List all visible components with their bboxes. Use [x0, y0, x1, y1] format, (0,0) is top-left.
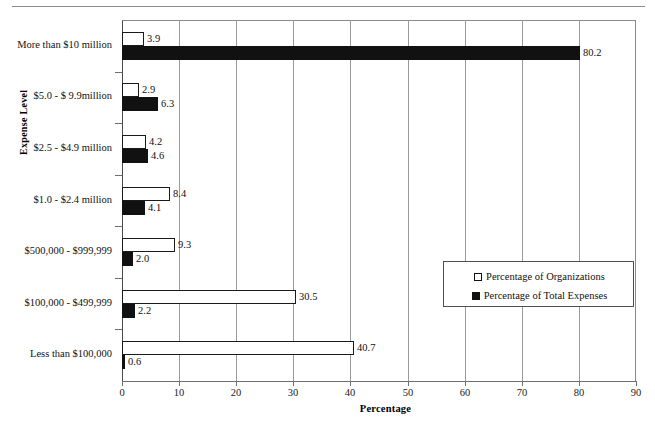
bar-organizations-6: [122, 341, 354, 355]
bar-organizations-3: [122, 187, 170, 201]
bar-organizations-0-value-label: 3.9: [147, 34, 160, 45]
y-tick-5: [115, 278, 122, 279]
bar-total-expenses-5-value-label: 2.2: [138, 306, 151, 317]
category-label-text: More than $10 million: [17, 39, 112, 50]
bar-total-expenses-2-value-label: 4.6: [151, 151, 164, 162]
gridline-80: [579, 20, 580, 381]
category-label-text: $1.0 - $2.4 million: [34, 194, 112, 205]
legend-label-total-expenses: Percentage of Total Expenses: [484, 290, 608, 301]
x-tick-20: [236, 381, 237, 386]
y-tick-6: [115, 329, 122, 330]
x-axis-title: Percentage: [0, 403, 655, 414]
gridline-20: [236, 20, 237, 381]
bar-organizations-5: [122, 290, 296, 304]
x-tick-label-90: 90: [616, 387, 655, 398]
x-tick-label-20: 20: [216, 387, 256, 398]
x-tick-label-40: 40: [330, 387, 370, 398]
bar-total-expenses-2: [122, 149, 148, 163]
gridline-10: [179, 20, 180, 381]
x-tick-70: [522, 381, 523, 386]
category-label-text: $2.5 - $4.9 million: [34, 142, 112, 153]
bar-total-expenses-5: [122, 304, 135, 318]
x-tick-0: [122, 381, 123, 386]
bar-organizations-3-value-label: 8.4: [173, 189, 186, 200]
chart-legend: Percentage of Organizations Percentage o…: [443, 261, 634, 307]
x-tick-label-0: 0: [102, 387, 142, 398]
gridline-50: [408, 20, 409, 381]
gridline-60: [465, 20, 466, 381]
x-tick-60: [465, 381, 466, 386]
x-tick-label-70: 70: [502, 387, 542, 398]
header-divider: [12, 6, 645, 7]
y-tick-3: [115, 175, 122, 176]
bar-organizations-2-value-label: 4.2: [149, 137, 162, 148]
y-tick-4: [115, 226, 122, 227]
legend-label-organizations: Percentage of Organizations: [486, 271, 605, 282]
x-tick-label-80: 80: [559, 387, 599, 398]
bar-chart: 0102030405060708090 More than $10 millio…: [0, 0, 655, 429]
bar-total-expenses-0: [122, 46, 580, 60]
x-tick-40: [350, 381, 351, 386]
category-label-text: $100,000 - $499,999: [25, 297, 113, 308]
bar-total-expenses-4: [122, 252, 133, 266]
x-axis-title-text: Percentage: [360, 403, 411, 414]
x-tick-10: [179, 381, 180, 386]
x-axis-line: [122, 381, 636, 382]
category-label-text: Less than $100,000: [30, 348, 112, 359]
gridline-70: [522, 20, 523, 381]
bar-organizations-1-value-label: 2.9: [142, 85, 155, 96]
gridline-30: [293, 20, 294, 381]
bar-total-expenses-6: [122, 355, 125, 369]
bar-total-expenses-1-value-label: 6.3: [161, 99, 174, 110]
bar-total-expenses-3: [122, 201, 145, 215]
plot-area: [122, 20, 636, 381]
bar-total-expenses-1: [122, 97, 158, 111]
x-tick-label-60: 60: [445, 387, 485, 398]
bar-total-expenses-3-value-label: 4.1: [148, 203, 161, 214]
x-tick-80: [579, 381, 580, 386]
bar-organizations-6-value-label: 40.7: [357, 343, 375, 354]
y-tick-2: [115, 123, 122, 124]
legend-swatch-hollow-square-icon: [474, 273, 482, 281]
bar-organizations-4: [122, 238, 175, 252]
y-tick-1: [115, 72, 122, 73]
legend-swatch-filled-square-icon: [472, 292, 480, 300]
bar-organizations-0: [122, 32, 144, 46]
bar-organizations-5-value-label: 30.5: [299, 292, 317, 303]
x-tick-30: [293, 381, 294, 386]
legend-item-organizations: Percentage of Organizations: [444, 268, 635, 285]
x-tick-90: [636, 381, 637, 386]
bar-total-expenses-4-value-label: 2.0: [136, 254, 149, 265]
bar-total-expenses-0-value-label: 80.2: [583, 48, 601, 59]
category-label-text: $500,000 - $999,999: [25, 245, 113, 256]
bar-organizations-2: [122, 135, 146, 149]
bar-total-expenses-6-value-label: 0.6: [128, 357, 141, 368]
category-label-text: $5.0 - $ 9.9million: [34, 90, 112, 101]
y-axis-title: Expense Level: [18, 90, 29, 155]
x-tick-50: [408, 381, 409, 386]
x-tick-label-50: 50: [388, 387, 428, 398]
gridline-40: [350, 20, 351, 381]
x-tick-label-30: 30: [273, 387, 313, 398]
x-tick-label-10: 10: [159, 387, 199, 398]
bar-organizations-1: [122, 83, 139, 97]
legend-item-total-expenses: Percentage of Total Expenses: [444, 287, 635, 304]
bar-organizations-4-value-label: 9.3: [178, 240, 191, 251]
